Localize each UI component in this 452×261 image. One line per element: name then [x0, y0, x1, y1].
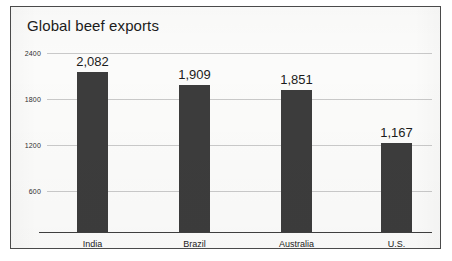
bar-brazil[interactable]: 1,909 Brazil [179, 85, 210, 232]
category-label-us: U.S. [388, 239, 406, 249]
plot-area: 2400 1800 1200 600 2,082 India 1,909 Bra… [47, 41, 432, 233]
category-label-india: India [83, 239, 103, 249]
category-label-australia: Australia [279, 239, 314, 249]
bar-australia[interactable]: 1,851 Australia [281, 90, 312, 232]
ytick-label-1800: 1800 [25, 96, 41, 103]
ytick-label-600: 600 [29, 188, 41, 195]
bar-value-us: 1,167 [380, 125, 413, 140]
ytick-label-1200: 1200 [25, 142, 41, 149]
bar-india[interactable]: 2,082 India [77, 72, 108, 232]
ytick-label-2400: 2400 [25, 50, 41, 57]
bar-value-india: 2,082 [76, 54, 109, 69]
category-label-brazil: Brazil [183, 239, 206, 249]
x-axis-line [39, 232, 432, 233]
bar-value-brazil: 1,909 [178, 67, 211, 82]
chart-figure: Global beef exports 2400 1800 1200 600 2… [0, 0, 452, 261]
bar-us[interactable]: 1,167 U.S. [381, 143, 412, 232]
chart-frame: Global beef exports 2400 1800 1200 600 2… [10, 6, 441, 249]
chart-title: Global beef exports [27, 17, 159, 35]
bar-value-australia: 1,851 [280, 72, 313, 87]
